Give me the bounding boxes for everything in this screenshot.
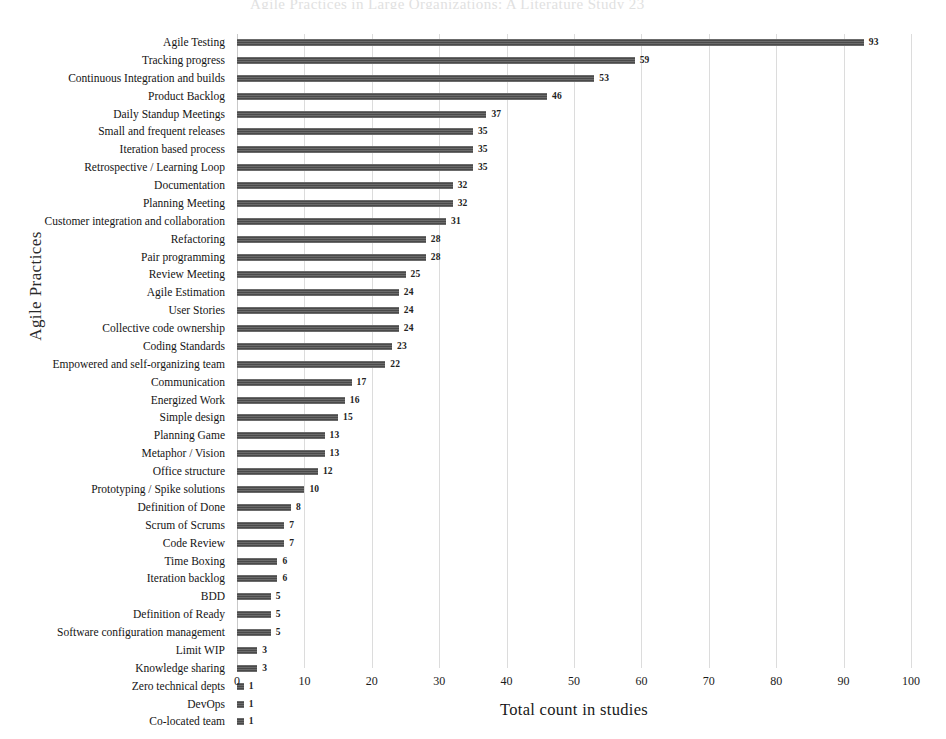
category-label: Iteration backlog [147,570,225,588]
bar[interactable] [237,647,257,654]
bar-value-label: 24 [404,302,414,319]
category-label-row: Code Review [0,535,231,553]
x-tick-label-100: 100 [902,674,920,689]
category-label: Continuous Integration and builds [68,70,225,88]
bar[interactable] [237,218,446,225]
category-label-row: Daily Standup Meetings [0,106,231,124]
bar[interactable] [237,343,392,350]
bar[interactable] [237,665,257,672]
category-label-row: Small and frequent releases [0,123,231,141]
category-label: Simple design [160,409,226,427]
bar-value-label: 53 [599,70,609,87]
bar[interactable] [237,397,345,404]
category-label: Pair programming [141,249,225,267]
bar-value-label: 35 [478,159,488,176]
bar-row: 32 [237,195,911,213]
bar[interactable] [237,414,338,421]
bar[interactable] [237,200,453,207]
bar-row: 53 [237,70,911,88]
category-label-row: Co-located team [0,713,231,731]
x-axis-ticks: 0102030405060708090100 [237,674,911,694]
category-label-row: Refactoring [0,231,231,249]
bar-row: 13 [237,427,911,445]
bar[interactable] [237,361,385,368]
bar[interactable] [237,75,594,82]
bar-row: 7 [237,535,911,553]
bar-row: 10 [237,481,911,499]
bar-row: 24 [237,284,911,302]
category-label-row: Pair programming [0,249,231,267]
bar[interactable] [237,164,473,171]
category-label: Small and frequent releases [98,123,225,141]
x-tick-label-70: 70 [703,674,715,689]
bar[interactable] [237,593,271,600]
bar[interactable] [237,450,325,457]
category-label-row: Iteration backlog [0,570,231,588]
bar-value-label: 10 [309,481,319,498]
bar-row: 15 [237,409,911,427]
category-label: Coding Standards [143,338,225,356]
bar[interactable] [237,611,271,618]
category-label: Planning Meeting [143,195,225,213]
category-label-row: Energized Work [0,392,231,410]
category-label-row: Time Boxing [0,553,231,571]
bar[interactable] [237,558,277,565]
category-label: Retrospective / Learning Loop [84,159,225,177]
bar-value-label: 5 [276,624,281,641]
bar[interactable] [237,486,304,493]
category-label: Metaphor / Vision [142,445,225,463]
bar[interactable] [237,289,399,296]
bar[interactable] [237,575,277,582]
bar[interactable] [237,236,426,243]
bar[interactable] [237,468,318,475]
bar[interactable] [237,432,325,439]
category-label-row: Limit WIP [0,642,231,660]
bar[interactable] [237,379,352,386]
bar[interactable] [237,182,453,189]
bar[interactable] [237,128,473,135]
x-tick-label-50: 50 [568,674,580,689]
bar[interactable] [237,57,635,64]
category-label-row: Review Meeting [0,266,231,284]
x-tick-label-80: 80 [770,674,782,689]
bar-row: 23 [237,338,911,356]
bar[interactable] [237,307,399,314]
bar[interactable] [237,522,284,529]
bar[interactable] [237,504,291,511]
category-label-row: Zero technical depts [0,678,231,696]
bar-value-label: 35 [478,123,488,140]
category-label: Tracking progress [142,52,225,70]
bar[interactable] [237,146,473,153]
bar[interactable] [237,111,486,118]
bar-row: 13 [237,445,911,463]
bar-row: 16 [237,392,911,410]
bar[interactable] [237,93,547,100]
bar-value-label: 93 [869,34,879,51]
bar[interactable] [237,540,284,547]
bar[interactable] [237,271,406,278]
x-tick-label-20: 20 [366,674,378,689]
bar-value-label: 6 [282,553,287,570]
category-label: Limit WIP [176,642,225,660]
bar-value-label: 5 [276,588,281,605]
category-label: Definition of Ready [133,606,225,624]
category-label-row: Agile Estimation [0,284,231,302]
bar[interactable] [237,629,271,636]
category-label: Collective code ownership [102,320,225,338]
x-tick-label-90: 90 [838,674,850,689]
bar-value-label: 35 [478,141,488,158]
bar-row: 93 [237,34,911,52]
bar-value-label: 32 [458,177,468,194]
category-label-row: Metaphor / Vision [0,445,231,463]
category-label: Communication [151,374,225,392]
bar[interactable] [237,39,864,46]
bar-row: 5 [237,624,911,642]
category-label-row: Continuous Integration and builds [0,70,231,88]
bar-row: 35 [237,141,911,159]
category-label-row: Software configuration management [0,624,231,642]
bar-row: 35 [237,123,911,141]
bar-value-label: 22 [390,356,400,373]
bar[interactable] [237,254,426,261]
bar[interactable] [237,325,399,332]
category-label-row: BDD [0,588,231,606]
